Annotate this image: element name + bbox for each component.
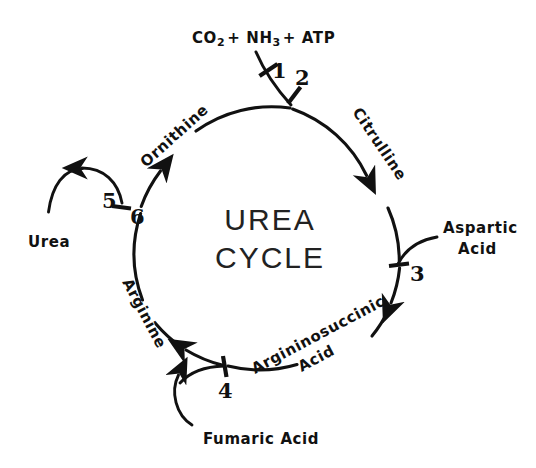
svg-text:CO2+ NH3+ ATP: CO2+ NH3+ ATP (192, 29, 335, 49)
metabolite-argininosuccinic: Argininosuccinic Acid (248, 292, 397, 395)
step-number-6: 6 (130, 204, 145, 229)
step-number-5: 5 (102, 188, 117, 213)
step-number-1: 1 (272, 58, 287, 83)
arc-ornithine-to-step2 (196, 107, 290, 131)
step-4-tick (223, 356, 227, 377)
urea-cycle-diagram: 1 2 3 4 5 6 UREA CYCLE CO2+ NH3+ ATP Cit… (0, 0, 536, 468)
metabolite-citrulline-label: Citrulline (349, 104, 411, 183)
arc-citrulline-to-step3 (388, 208, 399, 261)
input-atp-text: + ATP (283, 29, 335, 47)
step-3-tick (389, 264, 409, 267)
output-fumaric-acid-label: Fumaric Acid (203, 430, 319, 448)
input-aspartic-acid-line2: Acid (458, 240, 497, 258)
metabolite-citrulline: Citrulline (349, 104, 411, 183)
outlet-line-fumaric-acid (175, 375, 192, 425)
branch-urea-tail (49, 169, 83, 213)
step-number-3: 3 (410, 261, 425, 286)
metabolite-ornithine-label: Ornithine (137, 101, 212, 171)
metabolite-arginine: Arginine (118, 275, 170, 351)
input-co-subscript: 2 (217, 36, 225, 49)
step-number-4: 4 (218, 378, 233, 403)
page-title-line2: CYCLE (215, 241, 325, 274)
input-co-text: CO (192, 29, 217, 47)
input-co2-nh3-atp: CO2+ NH3+ ATP (192, 29, 335, 49)
diagram-canvas: 1 2 3 4 5 6 UREA CYCLE CO2+ NH3+ ATP Cit… (0, 0, 536, 468)
input-aspartic-acid-line1: Aspartic (443, 219, 518, 237)
page-title-line1: UREA (224, 203, 315, 236)
output-urea-label: Urea (28, 233, 70, 251)
step-number-2: 2 (295, 65, 310, 90)
metabolite-arginine-label: Arginine (118, 275, 170, 351)
input-nh-text: + NH (227, 29, 272, 47)
input-nh-subscript: 3 (273, 36, 281, 49)
arc-step6-to-ornithine (141, 171, 160, 207)
metabolite-ornithine: Ornithine (137, 101, 212, 171)
inlet-line-aspartic-acid (398, 237, 437, 264)
